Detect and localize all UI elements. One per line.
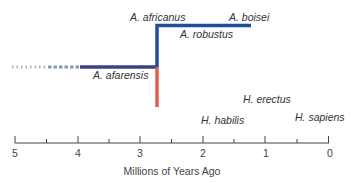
label-a-boisei: A. boisei [229,12,269,23]
axis-title: Millions of Years Ago [124,166,221,177]
tick-label-4: 4 [75,148,81,159]
label-h-habilis: H. habilis [201,115,244,126]
tick-label-0: 0 [327,148,333,159]
tick-label-2: 2 [200,148,206,159]
phylogeny-diagram [0,0,358,183]
time-axis [15,136,329,143]
label-a-africanus: A. africanus [130,12,185,23]
tick-label-5: 5 [12,148,18,159]
label-h-sapiens: H. sapiens [295,112,345,123]
tick-label-3: 3 [137,148,143,159]
tick-label-1: 1 [263,148,269,159]
label-a-robustus: A. robustus [180,29,233,40]
label-h-erectus: H. erectus [243,94,291,105]
label-a-afarensis: A. afarensis [93,70,148,81]
